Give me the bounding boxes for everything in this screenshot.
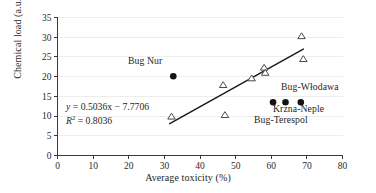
x-tick-label: 50 bbox=[231, 161, 241, 171]
scatter-chart-figure: 01020304050607080 05101520253035 Average… bbox=[0, 0, 376, 193]
y-axis-title: Chemical load (a.u.) bbox=[12, 0, 23, 79]
y-tick-label: 0 bbox=[47, 151, 52, 161]
x-tick-label: 80 bbox=[338, 161, 348, 171]
y-tick-label: 5 bbox=[47, 131, 52, 141]
data-point-triangle bbox=[298, 33, 305, 39]
x-tick-label: 20 bbox=[124, 161, 134, 171]
plot-area: 01020304050607080 05101520253035 bbox=[0, 0, 376, 193]
data-point-triangle bbox=[221, 112, 228, 118]
data-point-triangle bbox=[260, 64, 267, 70]
annotation-bug-nur: Bug Nur bbox=[128, 55, 162, 66]
x-tick-label: 60 bbox=[267, 161, 277, 171]
y-tick-label: 30 bbox=[42, 33, 52, 43]
data-point-triangle bbox=[219, 82, 226, 88]
x-tick-label: 30 bbox=[160, 161, 170, 171]
equation-slope-term: 0.5036x bbox=[81, 101, 112, 112]
x-axis-title: Average toxicity (%) bbox=[0, 172, 376, 183]
r-squared-number: 0.8036 bbox=[86, 115, 113, 126]
data-point-circle bbox=[170, 73, 177, 80]
y-tick-label: 25 bbox=[42, 52, 52, 62]
r-squared-value: R2 = 0.8036 bbox=[66, 114, 112, 126]
annotation-krzna-neple: Krzna-Neple bbox=[273, 103, 324, 114]
x-tick-label: 0 bbox=[55, 161, 60, 171]
equation-intercept-term: 7.7706 bbox=[122, 101, 149, 112]
x-tick-label: 70 bbox=[302, 161, 312, 171]
y-tick-label: 15 bbox=[42, 92, 52, 102]
annotation-bug-wlodawa: Bug-Włodawa bbox=[281, 81, 339, 92]
x-tick-label: 10 bbox=[88, 161, 98, 171]
y-axis-title-wrapper: Chemical load (a.u.) bbox=[7, 0, 25, 107]
y-tick-label: 35 bbox=[42, 13, 52, 23]
y-tick-label: 20 bbox=[42, 72, 52, 82]
x-tick-labels: 01020304050607080 bbox=[55, 161, 347, 171]
regression-equation: y = 0.5036x − 7.7706 bbox=[66, 101, 149, 112]
x-tick-label: 40 bbox=[195, 161, 205, 171]
y-tick-labels: 05101520253035 bbox=[42, 13, 52, 161]
y-tick-label: 10 bbox=[42, 111, 52, 121]
annotation-bug-terespol: Bug-Terespol bbox=[254, 114, 308, 125]
